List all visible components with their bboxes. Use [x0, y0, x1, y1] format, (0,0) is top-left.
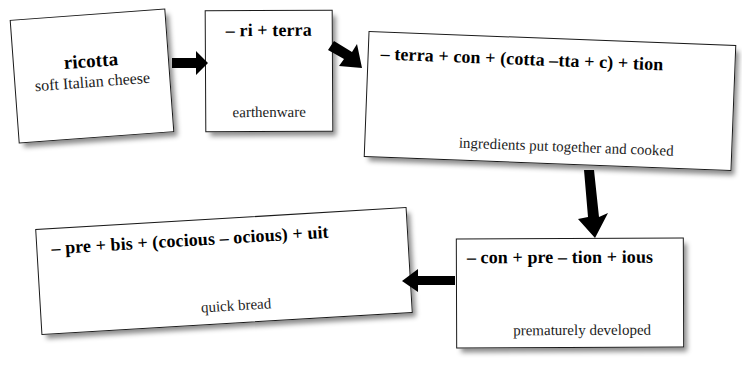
node-con-pre[interactable]: – con + pre – tion + ious prematurely de… [456, 238, 684, 349]
node-terra-con-gloss: ingredients put together and cooked [425, 132, 674, 160]
node-pre-bis-gloss: quick bread [184, 294, 271, 317]
node-terra-con[interactable]: – terra + con + (cotta –tta + c) + tion … [364, 31, 737, 171]
node-pre-bis[interactable]: – pre + bis + (cocious – ocious) + uit q… [35, 207, 413, 335]
node-ri-terra-head: – ri + terra [226, 20, 312, 41]
node-con-pre-head: – con + pre – tion + ious [467, 247, 653, 269]
arrow-ricotta-to-riterra [172, 51, 208, 75]
node-ri-terra-gloss: earthenware [233, 103, 306, 121]
node-ricotta-text: ricotta soft Italian cheese [33, 46, 151, 96]
arrow-riterra-to-terracon [328, 41, 362, 68]
node-ricotta[interactable]: ricotta soft Italian cheese [10, 8, 175, 143]
diagram-canvas: ricotta soft Italian cheese – ri + terra… [0, 0, 742, 374]
arrow-terracon-to-conpre [578, 170, 608, 238]
node-ri-terra[interactable]: – ri + terra earthenware [205, 10, 334, 133]
node-pre-bis-head: – pre + bis + (cocious – ocious) + uit [51, 221, 330, 259]
node-terra-con-head: – terra + con + (cotta –tta + c) + tion [380, 42, 663, 75]
node-con-pre-gloss: prematurely developed [491, 321, 651, 340]
